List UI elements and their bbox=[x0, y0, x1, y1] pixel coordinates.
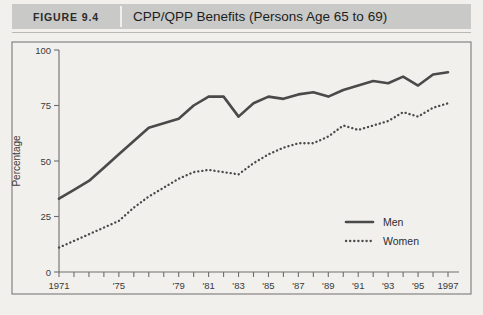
x-axis-tick-label: '91 bbox=[352, 280, 364, 291]
chart-plot-area: 0255075100Percentage1971'75'79'81'83'85'… bbox=[0, 36, 483, 315]
series-line-men bbox=[59, 72, 448, 199]
x-axis-tick-label: 1997 bbox=[437, 280, 458, 291]
x-axis-tick-label: '87 bbox=[292, 280, 304, 291]
figure-page: FIGURE 9.4 CPP/QPP Benefits (Persons Age… bbox=[0, 0, 483, 315]
x-axis-tick-label: '83 bbox=[232, 280, 244, 291]
y-axis-tick-label: 100 bbox=[35, 45, 51, 56]
chart-frame bbox=[12, 42, 471, 294]
y-axis-tick-label: 0 bbox=[46, 267, 51, 278]
y-axis-title: Percentage bbox=[11, 135, 22, 187]
x-axis-tick-label: '85 bbox=[262, 280, 274, 291]
figure-number-label: FIGURE 9.4 bbox=[12, 4, 120, 29]
y-axis-tick-label: 75 bbox=[40, 100, 51, 111]
x-axis-tick-label: '75 bbox=[113, 280, 125, 291]
legend-label-men: Men bbox=[383, 216, 404, 228]
line-chart: 0255075100Percentage1971'75'79'81'83'85'… bbox=[0, 36, 483, 315]
legend-label-women: Women bbox=[383, 235, 419, 247]
y-axis-tick-label: 50 bbox=[40, 156, 51, 167]
header-underline bbox=[12, 32, 471, 33]
x-axis-tick-label: '95 bbox=[412, 280, 424, 291]
chart-legend: MenWomen bbox=[346, 216, 419, 247]
x-axis-tick-label: '93 bbox=[382, 280, 394, 291]
figure-title: CPP/QPP Benefits (Persons Age 65 to 69) bbox=[122, 4, 471, 29]
x-axis-tick-label: '79 bbox=[172, 280, 184, 291]
x-axis-tick-label: 1971 bbox=[48, 280, 69, 291]
figure-header-band: FIGURE 9.4 CPP/QPP Benefits (Persons Age… bbox=[12, 4, 471, 29]
x-axis-tick-label: '89 bbox=[322, 280, 334, 291]
y-axis-tick-label: 25 bbox=[40, 211, 51, 222]
x-axis-tick-label: '81 bbox=[202, 280, 214, 291]
